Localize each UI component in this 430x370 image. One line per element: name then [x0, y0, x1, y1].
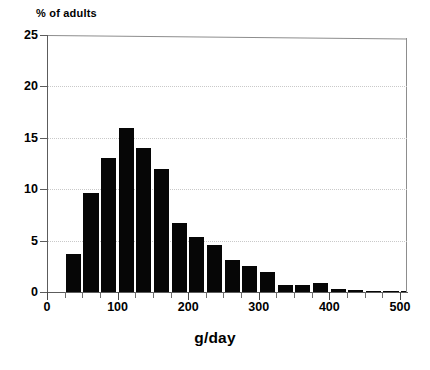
- bar: [207, 245, 222, 292]
- x-tick-mark-175: [171, 292, 172, 298]
- bar: [260, 272, 275, 292]
- plot-frame-right-border: [406, 38, 407, 292]
- x-tick-mark-250: [223, 292, 224, 298]
- x-tick-label-200: 200: [158, 301, 218, 314]
- x-tick-mark-375: [312, 292, 313, 298]
- x-tick-mark-125: [135, 292, 136, 298]
- bar: [331, 289, 346, 292]
- x-tick-mark-475: [382, 292, 383, 298]
- x-tick-mark-25: [65, 292, 66, 298]
- y-tick-mark-5: [40, 241, 48, 242]
- y-tick-mark-20: [40, 86, 48, 87]
- x-tick-mark-75: [100, 292, 101, 298]
- bar: [136, 148, 151, 292]
- y-tick-label-20: 20: [24, 80, 38, 93]
- x-tick-mark-500: [400, 292, 401, 300]
- bar: [83, 193, 98, 292]
- x-axis-title: g/day: [0, 329, 430, 347]
- bar: [66, 254, 81, 292]
- y-tick-label-0: 0: [31, 286, 38, 299]
- bar: [383, 291, 398, 292]
- bar: [172, 223, 187, 292]
- bar: [189, 237, 204, 293]
- y-tick-label-15: 15: [24, 132, 38, 145]
- bar: [366, 291, 381, 292]
- bar: [154, 169, 169, 292]
- y-tick-label-10: 10: [24, 183, 38, 196]
- x-tick-mark-300: [259, 292, 260, 300]
- y-tick-mark-15: [40, 138, 48, 139]
- bar: [278, 285, 293, 292]
- x-tick-label-100: 100: [88, 301, 148, 314]
- x-tick-label-400: 400: [299, 301, 359, 314]
- x-tick-label-300: 300: [229, 301, 289, 314]
- gridline-y-15: [47, 138, 407, 139]
- y-tick-label-5: 5: [31, 235, 38, 248]
- plot-area: [47, 35, 407, 292]
- x-tick-mark-450: [365, 292, 366, 298]
- y-tick-mark-10: [40, 189, 48, 190]
- bar: [348, 290, 363, 292]
- bar: [295, 285, 310, 292]
- x-tick-mark-100: [118, 292, 119, 300]
- bar: [119, 128, 134, 292]
- bar: [225, 260, 240, 292]
- x-tick-mark-350: [294, 292, 295, 298]
- x-tick-mark-50: [82, 292, 83, 298]
- gridline-y-20: [47, 86, 407, 87]
- x-tick-label-500: 500: [370, 301, 430, 314]
- y-tick-mark-25: [40, 35, 48, 36]
- x-tick-mark-225: [206, 292, 207, 298]
- y-axis-title: % of adults: [36, 7, 97, 19]
- bar: [313, 283, 328, 292]
- x-tick-mark-275: [241, 292, 242, 298]
- x-tick-mark-0: [47, 292, 48, 300]
- x-tick-mark-150: [153, 292, 154, 298]
- plot-frame-top-border: [47, 35, 407, 39]
- bar: [242, 266, 257, 292]
- x-tick-label-0: 0: [17, 301, 77, 314]
- x-tick-mark-425: [347, 292, 348, 298]
- x-tick-mark-200: [188, 292, 189, 300]
- histogram-figure: % of adults 0510152025 0100200300400500 …: [0, 0, 430, 370]
- x-tick-mark-400: [329, 292, 330, 300]
- bar: [401, 291, 405, 292]
- y-tick-label-25: 25: [24, 29, 38, 42]
- bar: [101, 158, 116, 292]
- x-tick-mark-325: [276, 292, 277, 298]
